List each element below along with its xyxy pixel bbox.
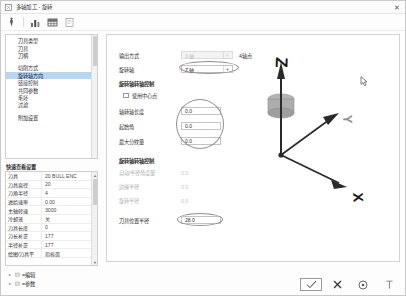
property-key: 进给速率	[6, 198, 42, 206]
settings-tree[interactable]: 刀具类型刀具刀柄切削方式旋转轴方向链接控制共同参数毛坯过滤附加设置	[5, 34, 98, 159]
checkbox-icon[interactable]	[123, 93, 129, 99]
field-label-1: 起始角	[119, 123, 181, 130]
table-row[interactable]: 冷却液关	[6, 215, 97, 224]
table-row[interactable]: 刀具直径20	[6, 181, 97, 190]
tree-scrollbar[interactable]	[91, 35, 97, 158]
page-icon[interactable]	[63, 16, 76, 29]
tree-item-9[interactable]: 附加设置	[6, 114, 97, 121]
property-table[interactable]: 刀具20 BULL ENC刀具直径20刀角半径4进给速率0.00主轴转速3000…	[5, 171, 98, 266]
chart-icon[interactable]	[29, 16, 42, 29]
property-value: 4	[42, 190, 97, 196]
use-center-label: 使用中心点	[132, 92, 157, 99]
property-key: 刀具	[6, 172, 42, 180]
property-key: 半径补正	[6, 241, 42, 249]
tree-item-3[interactable]: 切削方式	[6, 64, 97, 71]
help-button[interactable]	[352, 278, 374, 291]
tree-scroll-thumb[interactable]	[93, 36, 97, 66]
tree-item-1[interactable]: 刀具	[6, 44, 97, 51]
property-key: 刀具直径	[6, 181, 42, 189]
property-key: 刀具长度	[6, 224, 42, 232]
3d-axis-viewport[interactable]: Z Y X	[235, 37, 399, 227]
bottom-tree-item-1[interactable]: ▸ =参数	[5, 279, 98, 288]
property-key: 绘图/刀具平	[6, 249, 42, 257]
output-mode-select[interactable]: 3 轴 ▼	[181, 51, 233, 59]
scroll-down-icon[interactable]: ▼	[93, 260, 98, 265]
bottom-tree-label: =编辑	[22, 271, 35, 278]
disabled-row-1: 边缘半径 0.0	[119, 183, 188, 190]
tree-item-label: 附加设置	[18, 114, 38, 121]
chevron-down-icon[interactable]: ▼	[223, 66, 231, 72]
chevron-down-icon[interactable]: ▼	[223, 52, 231, 58]
property-key: 主轴转速	[6, 206, 42, 214]
rotary-section-heading: 旋转轴转轴控制	[119, 80, 154, 87]
rotate-axis-select[interactable]: Z 轴 ▼	[181, 65, 233, 73]
toolbar	[1, 14, 405, 31]
disabled-row-0: 自动/半径角度量 0.0	[119, 169, 188, 176]
tree-item-4[interactable]: 旋转轴方向	[6, 72, 97, 79]
tree-item-2[interactable]: 刀柄	[6, 52, 97, 59]
field-input-1[interactable]: 0.0	[181, 122, 221, 130]
tree-item-label: 旋转轴方向	[18, 72, 44, 79]
tree-item-label: 链接控制	[18, 79, 38, 86]
table-row[interactable]: 刀角半径4	[6, 189, 97, 198]
field-value-2: 0.0	[185, 138, 192, 144]
tree-item-7[interactable]: 毛坯	[6, 94, 97, 101]
table-row[interactable]: 刀具20 BULL ENC	[6, 172, 97, 181]
tool-length-label: 刀具位置半径	[119, 217, 181, 224]
field-value-1: 0.0	[185, 123, 192, 129]
property-key: 刀长补正	[6, 232, 42, 240]
scroll-up-icon[interactable]: ▲	[93, 173, 98, 178]
settings-form: 输出方式 3 轴 ▼ 4轴点 旋转轴 Z 轴 ▼	[106, 34, 400, 262]
table-row[interactable]: 绘图/刀具平指板面	[6, 249, 97, 258]
tool-length-row: 刀具位置半径 28.0	[119, 216, 221, 224]
tree-item-5[interactable]: 链接控制	[6, 79, 97, 86]
property-value: 177	[42, 233, 97, 239]
window-title: 多轴加工 - 旋转	[16, 3, 53, 11]
tree-item-0[interactable]: 刀具类型	[6, 37, 97, 44]
property-value: 177	[42, 242, 97, 248]
tool-length-input[interactable]: 28.0	[181, 216, 221, 224]
field-row-1: 起始角 0.0	[119, 122, 221, 130]
ok-button[interactable]	[300, 278, 322, 291]
disabled-row-2: 旋转半径 0.0	[119, 197, 188, 204]
table-row[interactable]: 主轴转速3000	[6, 206, 97, 215]
property-value: 关	[42, 215, 97, 222]
property-scrollbar[interactable]: ▲ ▼	[91, 172, 97, 265]
bottom-tree-item-0[interactable]: ▸ =编辑	[5, 270, 98, 279]
property-value: 0	[42, 224, 97, 230]
cancel-button[interactable]	[326, 278, 348, 291]
pin-button[interactable]	[378, 278, 400, 291]
dialog-window: 多轴加工 - 旋转 ✕	[0, 0, 406, 296]
disabled-value-1: 0.0	[181, 184, 188, 190]
field-row-2: 最大分纹量 0.0	[119, 137, 221, 145]
tool-icon[interactable]	[5, 16, 18, 29]
dialog-actions	[300, 278, 400, 291]
property-value: 0.00	[42, 199, 97, 205]
field-input-2[interactable]: 0.0	[181, 137, 221, 145]
tree-item-label: 刀具类型	[18, 37, 38, 44]
tree-item-6[interactable]: 共同参数	[6, 86, 97, 93]
property-key: 冷却液	[6, 215, 42, 223]
field-input-0[interactable]: 0.0	[181, 107, 221, 115]
table-icon[interactable]	[46, 16, 59, 29]
axis-label-z: Z	[272, 57, 291, 68]
close-icon[interactable]: ✕	[392, 3, 401, 12]
property-value: 20 BULL ENC	[42, 173, 97, 179]
rotate-axis-row: 旋转轴 Z 轴 ▼	[119, 65, 233, 73]
disabled-value-2: 0.0	[181, 198, 188, 204]
output-mode-value: 3 轴	[185, 52, 194, 59]
bottom-tree-label: =参数	[22, 280, 35, 287]
table-row[interactable]: 进给速率0.00	[6, 198, 97, 207]
tree-item-8[interactable]: 过滤	[6, 101, 97, 108]
table-row[interactable]: 半径补正177	[6, 241, 97, 250]
quick-view-title: 快速查看设置	[6, 163, 36, 170]
table-row[interactable]: 刀具长度0	[6, 224, 97, 233]
property-scroll-thumb[interactable]	[93, 179, 97, 205]
app-icon	[4, 3, 13, 12]
use-center-checkbox-row[interactable]: 使用中心点	[123, 92, 157, 99]
tool-length-value: 28.0	[185, 217, 195, 223]
property-value: 20	[42, 181, 97, 187]
right-panel: 输出方式 3 轴 ▼ 4轴点 旋转轴 Z 轴 ▼	[102, 31, 405, 295]
table-row[interactable]: 刀长补正177	[6, 232, 97, 241]
property-value: 指板面	[42, 250, 97, 257]
